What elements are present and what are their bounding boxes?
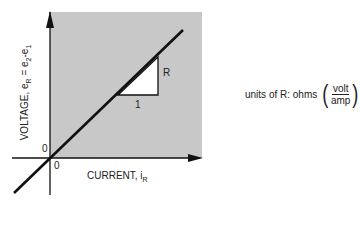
right-paren: ) bbox=[353, 81, 359, 107]
y-origin-label: 0 bbox=[42, 143, 48, 154]
units-numerator: volt bbox=[332, 83, 350, 95]
x-origin-label: 0 bbox=[54, 160, 60, 171]
units-fraction: volt amp bbox=[331, 83, 350, 106]
run-label: 1 bbox=[135, 99, 141, 110]
units-denominator: amp bbox=[331, 95, 350, 106]
x-axis-label: CURRENT, iR bbox=[87, 170, 148, 183]
units-prefix: units of R: ohms bbox=[245, 89, 317, 100]
left-paren: ( bbox=[323, 81, 329, 107]
units-note: units of R: ohms ( volt amp ) bbox=[245, 81, 360, 107]
rise-label: R bbox=[163, 67, 170, 78]
y-axis-label: VOLTAGE, eR = e2-e1 bbox=[19, 38, 32, 148]
